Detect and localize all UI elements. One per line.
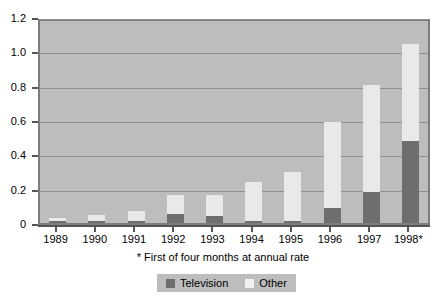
bar-segment-television — [324, 208, 341, 223]
x-axis-tick-label: 1998* — [388, 233, 428, 245]
stacked-bar-chart: 00.20.40.60.81.01.2 19891990199119921993… — [0, 0, 446, 305]
y-axis-tick-label: 1.2 — [11, 12, 26, 24]
legend-item[interactable]: Other — [245, 277, 287, 289]
x-axis-tick-mark — [407, 227, 409, 232]
x-axis-tick-mark — [172, 227, 174, 232]
legend-label: Television — [180, 277, 228, 289]
legend-swatch-icon — [166, 279, 175, 288]
x-axis-tick-mark — [55, 227, 57, 232]
bar-segment-television — [402, 141, 419, 223]
x-axis-tick-label: 1990 — [75, 233, 115, 245]
bar-segment-television — [284, 221, 301, 223]
bar-segment-other — [245, 182, 262, 221]
plot-area — [38, 19, 430, 225]
bar-segment-television — [49, 221, 66, 223]
chart-footnote: * First of four months at annual rate — [0, 251, 446, 263]
bar-segment-other — [167, 195, 184, 214]
y-axis-tick-mark — [32, 18, 38, 20]
bar-segment-other — [206, 195, 223, 216]
bar-segment-other — [128, 211, 145, 221]
bar-segment-other — [363, 85, 380, 192]
x-axis-tick-mark — [251, 227, 253, 232]
x-axis-tick-label: 1995 — [271, 233, 311, 245]
y-axis-tick-label: 0.6 — [11, 115, 26, 127]
bar-group — [167, 195, 184, 223]
bar-segment-television — [245, 221, 262, 223]
bar-segment-television — [128, 221, 145, 223]
bar-segment-television — [363, 192, 380, 223]
x-axis-tick-label: 1996 — [310, 233, 350, 245]
legend-label: Other — [259, 277, 287, 289]
bar-group — [324, 122, 341, 223]
x-axis-tick-mark — [368, 227, 370, 232]
y-axis-tick-mark — [32, 190, 38, 192]
legend-swatch-icon — [245, 279, 254, 288]
bar-segment-other — [402, 44, 419, 141]
gridline — [40, 53, 428, 54]
gridline — [40, 19, 428, 20]
x-axis-tick-mark — [329, 227, 331, 232]
bar-segment-other — [284, 172, 301, 221]
bar-segment-television — [206, 216, 223, 223]
bar-group — [284, 172, 301, 223]
bar-segment-television — [167, 214, 184, 223]
y-axis-tick-label: 1.0 — [11, 46, 26, 58]
x-axis-tick-label: 1994 — [232, 233, 272, 245]
bar-group — [402, 44, 419, 223]
bar-segment-other — [324, 122, 341, 208]
x-axis-tick-mark — [133, 227, 135, 232]
y-axis-tick-mark — [32, 87, 38, 89]
bar-group — [49, 218, 66, 223]
x-axis-tick-label: 1997 — [349, 233, 389, 245]
x-axis-tick-label: 1991 — [114, 233, 154, 245]
y-axis-tick-label: 0 — [20, 218, 26, 230]
y-axis-tick-label: 0.2 — [11, 184, 26, 196]
y-axis-tick-mark — [32, 52, 38, 54]
x-axis-tick-label: 1989 — [36, 233, 76, 245]
bar-group — [363, 85, 380, 223]
bar-group — [128, 211, 145, 223]
y-axis-tick-mark — [32, 121, 38, 123]
x-axis-tick-mark — [290, 227, 292, 232]
x-axis-tick-label: 1993 — [192, 233, 232, 245]
legend-item[interactable]: Television — [166, 277, 228, 289]
x-axis-tick-mark — [211, 227, 213, 232]
bar-segment-television — [88, 221, 105, 223]
bar-group — [88, 215, 105, 223]
bar-group — [206, 195, 223, 223]
x-axis-line — [38, 225, 430, 227]
chart-legend: TelevisionOther — [157, 274, 296, 292]
y-axis-tick-mark — [32, 155, 38, 157]
bar-group — [245, 182, 262, 223]
x-axis-tick-mark — [94, 227, 96, 232]
x-axis-tick-label: 1992 — [153, 233, 193, 245]
y-axis-tick-label: 0.4 — [11, 149, 26, 161]
y-axis-tick-label: 0.8 — [11, 81, 26, 93]
